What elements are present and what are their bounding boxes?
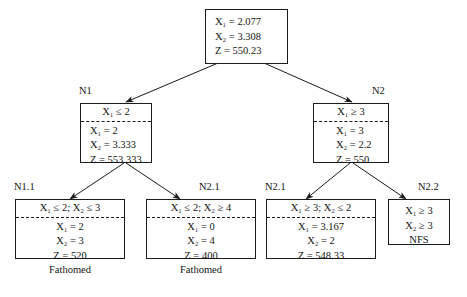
node-n22-row-nfs: NFS (389, 233, 449, 248)
node-n11-header: X₁ ≤ 2; X₂ ≤ 3 (16, 200, 124, 218)
node-n1-label: N1 (79, 86, 92, 97)
edge-root-to-n1 (126, 63, 218, 102)
node-root-row-x1: X₁ = 2.077 (206, 15, 287, 30)
node-root-row-x2: X₂ = 3.308 (206, 30, 287, 45)
node-n11-body: X₁ = 2 X₂ = 3 Z = 520 (16, 218, 124, 267)
node-n11[interactable]: X₁ ≤ 2; X₂ ≤ 3 X₁ = 2 X₂ = 3 Z = 520 (15, 199, 125, 259)
node-n11-row-x1: X₁ = 2 (16, 220, 124, 235)
node-n1[interactable]: X₁ ≤ 2 X₁ = 2 X₂ = 3.333 Z = 553.333 (80, 103, 152, 163)
node-n21left-row-z: Z = 400 (147, 249, 255, 264)
node-n21right-label: N2.1 (265, 182, 286, 193)
node-n22-body: X₁ ≥ 3 X₂ ≥ 3 NFS (389, 200, 449, 251)
node-n21-right[interactable]: X₁ ≥ 3; X₂ ≤ 2 X₁ = 3.167 X₂ = 2 Z = 548… (266, 199, 376, 259)
node-n21left-header: X₁ ≤ 2; X₂ ≥ 4 (147, 200, 255, 218)
node-n22-row-x1: X₁ ≥ 3 (389, 204, 449, 219)
node-n1-body: X₁ = 2 X₂ = 3.333 Z = 553.333 (81, 122, 151, 171)
node-n21right-header: X₁ ≥ 3; X₂ ≤ 2 (267, 200, 375, 218)
node-n2-row-x1: X₁ = 3 (314, 124, 388, 139)
node-n22-row-x2: X₂ ≥ 3 (389, 219, 449, 234)
node-n21left-row-x1: X₁ = 0 (147, 220, 255, 235)
node-root[interactable]: X₁ = 2.077 X₂ = 3.308 Z = 550.23 (205, 9, 288, 64)
node-n22[interactable]: X₁ ≥ 3 X₂ ≥ 3 NFS (388, 199, 450, 245)
node-n11-status: Fathomed (15, 265, 125, 276)
node-n1-row-x2: X₂ = 3.333 (81, 138, 151, 153)
node-n2[interactable]: X₁ ≥ 3 X₁ = 3 X₂ = 2.2 Z = 550 (313, 103, 389, 163)
node-n21-left[interactable]: X₁ ≤ 2; X₂ ≥ 4 X₁ = 0 X₂ = 4 Z = 400 (146, 199, 256, 259)
node-n21right-row-x1: X₁ = 3.167 (267, 220, 375, 235)
node-n21left-label: N2.1 (199, 182, 220, 193)
node-n21right-row-x2: X₂ = 2 (267, 234, 375, 249)
node-n2-header: X₁ ≥ 3 (314, 104, 388, 122)
node-root-body: X₁ = 2.077 X₂ = 3.308 Z = 550.23 (206, 10, 287, 62)
node-n11-label: N1.1 (14, 182, 35, 193)
node-n1-header: X₁ ≤ 2 (81, 104, 151, 122)
node-n2-body: X₁ = 3 X₂ = 2.2 Z = 550 (314, 122, 388, 171)
node-n11-row-z: Z = 520 (16, 249, 124, 264)
node-n21right-row-z: Z = 548.33 (267, 249, 375, 264)
node-n1-row-z: Z = 553.333 (81, 153, 151, 168)
node-n11-row-x2: X₂ = 3 (16, 234, 124, 249)
node-n21left-body: X₁ = 0 X₂ = 4 Z = 400 (147, 218, 255, 267)
branch-and-bound-diagram: X₁ = 2.077 X₂ = 3.308 Z = 550.23 N1 X₁ ≤… (0, 0, 467, 297)
node-n2-row-x2: X₂ = 2.2 (314, 138, 388, 153)
node-n21left-status: Fathomed (146, 265, 256, 276)
node-root-row-z: Z = 550.23 (206, 44, 287, 59)
node-n2-label: N2 (372, 86, 385, 97)
node-n1-row-x1: X₁ = 2 (81, 124, 151, 139)
edge-root-to-n2 (264, 63, 352, 102)
node-n22-label: N2.2 (418, 182, 439, 193)
node-n21right-body: X₁ = 3.167 X₂ = 2 Z = 548.33 (267, 218, 375, 267)
node-n21left-row-x2: X₂ = 4 (147, 234, 255, 249)
node-n2-row-z: Z = 550 (314, 153, 388, 168)
